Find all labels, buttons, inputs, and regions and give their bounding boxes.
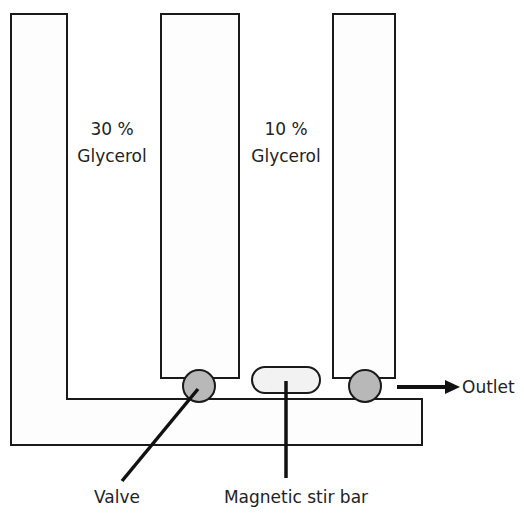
outlet-arrow-icon [445,380,460,394]
valve-label: Valve [94,487,140,507]
chamber-left-percent-label: 30 % [90,119,133,139]
chamber-30-percent [161,14,239,378]
gradient-mixer-diagram: 30 % Glycerol 10 % Glycerol Valve Magnet… [0,0,524,517]
chamber-10-percent [333,14,395,378]
outlet-label: Outlet [462,377,515,397]
chamber-mid-percent-label: 10 % [264,119,307,139]
valve-left-icon [183,370,215,402]
stir-bar-label: Magnetic stir bar [224,487,368,507]
valve-right-icon [349,370,381,402]
chamber-left-name-label: Glycerol [77,146,147,166]
chamber-mid-name-label: Glycerol [251,146,321,166]
